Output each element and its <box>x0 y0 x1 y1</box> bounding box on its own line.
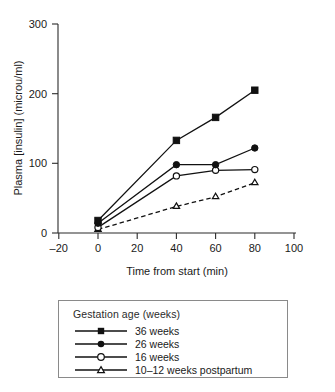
legend-item-postpartum: 10–12 weeks postpartum <box>73 364 287 376</box>
x-tick-label-20: 20 <box>131 242 143 254</box>
legend-item-16-weeks: 16 weeks <box>73 351 287 363</box>
insulin-response-figure: 0 100 200 300 –20 0 20 40 60 80 100 Time… <box>0 0 335 392</box>
legend-title: Gestation age (weeks) <box>73 308 287 320</box>
legend-label-36-weeks: 36 weeks <box>135 325 179 337</box>
x-axis-title: Time from start (min) <box>126 265 228 277</box>
marker-36w-40 <box>173 137 179 143</box>
legend-label-26-weeks: 26 weeks <box>135 338 179 350</box>
open-triangle-marker-icon <box>73 364 129 376</box>
x-tick-label-60: 60 <box>209 242 221 254</box>
legend-label-postpartum: 10–12 weeks postpartum <box>135 364 252 376</box>
legend-entry-list: 36 weeks 26 weeks 16 w <box>73 325 287 376</box>
x-tick-label-0: 0 <box>95 242 101 254</box>
y-tick-label-0: 0 <box>41 227 47 239</box>
marker-26w-60 <box>212 162 218 168</box>
series-line-36-weeks <box>98 90 255 220</box>
y-tick-label-200: 200 <box>29 88 47 100</box>
filled-circle-marker-icon <box>73 338 129 350</box>
y-axis-title: Plasma [insulin] (microu/ml) <box>12 60 24 195</box>
marker-16w-80 <box>252 167 258 173</box>
marker-16w-40 <box>173 173 179 179</box>
legend-label-16-weeks: 16 weeks <box>135 351 179 363</box>
filled-square-marker-icon <box>73 325 129 337</box>
line-chart-svg: 0 100 200 300 –20 0 20 40 60 80 100 Time… <box>0 0 335 280</box>
marker-postpartum-60 <box>212 193 218 199</box>
y-tick-label-100: 100 <box>29 157 47 169</box>
marker-26w-80 <box>252 145 258 151</box>
x-tick-label-80: 80 <box>249 242 261 254</box>
x-tick-label-100: 100 <box>285 242 303 254</box>
open-circle-marker-icon <box>73 351 129 363</box>
chart-legend: Gestation age (weeks) 36 weeks <box>58 300 288 378</box>
marker-36w-0 <box>95 217 101 223</box>
marker-36w-60 <box>212 114 218 120</box>
legend-item-36-weeks: 36 weeks <box>73 325 287 337</box>
x-tick-label-40: 40 <box>170 242 182 254</box>
marker-36w-80 <box>252 87 258 93</box>
marker-postpartum-80 <box>252 179 258 185</box>
legend-item-26-weeks: 26 weeks <box>73 338 287 350</box>
chart-plot-area: 0 100 200 300 –20 0 20 40 60 80 100 Time… <box>0 0 335 280</box>
y-tick-label-300: 300 <box>29 18 47 30</box>
marker-26w-40 <box>173 162 179 168</box>
marker-postpartum-40 <box>173 203 179 209</box>
x-tick-label-neg20: –20 <box>50 242 68 254</box>
